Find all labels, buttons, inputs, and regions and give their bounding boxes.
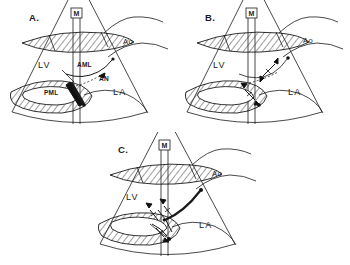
panel-label-c: C. [118,144,128,155]
label-lv: LV [126,192,139,202]
septum-hatched-band [22,32,134,52]
leaflet-excursion-marker-upper [260,58,278,82]
label-aml: AML [77,61,92,68]
panel-b: B. M LV LA Ao [175,0,350,133]
m-cursor-label: M [74,10,80,17]
label-ao: Ao [212,169,222,178]
label-la: LA [113,87,126,97]
figure-canvas: A. M LV LA Ao AML PML AN [0,0,350,265]
leaflet-excursion-marker-2 [160,199,172,216]
label-la: LA [288,87,301,97]
panel-label-a: A. [29,12,39,23]
m-cursor-label: M [249,10,255,17]
label-lv: LV [213,60,226,70]
septum-hatched-band [197,32,309,52]
panel-a: A. M LV LA Ao AML PML AN [0,0,175,133]
label-lv: LV [38,60,51,70]
label-ao: Ao [123,37,133,46]
septum-hatched-band [110,164,222,184]
label-ao: Ao [303,36,313,45]
posterior-wall-hatched-crescent [185,81,267,113]
label-la: LA [199,220,212,230]
label-pml: PML [44,89,58,96]
panel-c: C. M LV LA Ao [88,132,263,265]
label-an: AN [99,75,109,82]
panel-label-b: B. [205,12,215,23]
m-cursor-label: M [162,142,168,149]
